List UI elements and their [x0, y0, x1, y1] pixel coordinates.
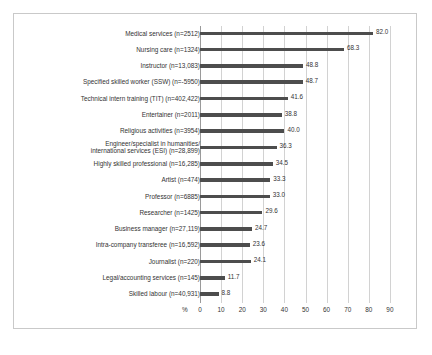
x-tick-label-50: 50 — [296, 306, 316, 313]
category-label: Business manager (n=27,119) — [20, 225, 200, 233]
category-label: Intra-company transferee (n=16,592) — [20, 241, 200, 249]
bar — [200, 243, 250, 247]
chart-bar-row: Religious activities (n=3954)40.0 — [14, 124, 418, 139]
bar-value-label: 82.0 — [376, 28, 388, 35]
category-label: Highly skilled professional (n=16,285) — [20, 160, 200, 168]
category-label: Religious activities (n=3954) — [20, 127, 200, 135]
plot-area: Medical services (n=2512)82.0Nursing car… — [14, 14, 418, 330]
chart-bar-row: Legal/accounting services (n=145)11.7 — [14, 271, 418, 286]
x-tick-label-90: 90 — [380, 306, 400, 313]
chart-bar-row: Artist (n=474)33.3 — [14, 173, 418, 188]
bar-value-label: 29.6 — [265, 207, 277, 214]
bar-value-label: 48.7 — [306, 77, 318, 84]
bar — [200, 97, 288, 101]
bar — [200, 227, 252, 231]
category-label: Researcher (n=1425) — [20, 209, 200, 217]
bar-value-label: 24.1 — [254, 256, 266, 263]
category-label: Medical services (n=2512) — [20, 30, 200, 38]
chart-bar-row: Entertainer (n=2011)38.8 — [14, 108, 418, 123]
bar — [200, 80, 303, 84]
category-label: Skilled labour (n=40,931) — [20, 290, 200, 298]
x-tick-label-20: 20 — [232, 306, 252, 313]
chart-bar-row: Professor (n=6885)33.0 — [14, 189, 418, 204]
bar — [200, 113, 282, 117]
category-label: Technical intern training (TIT) (n=402,4… — [20, 95, 200, 103]
bar-value-label: 33.0 — [273, 191, 285, 198]
chart-bar-row: Skilled labour (n=40,931)8.8 — [14, 287, 418, 302]
x-tick-label-10: 10 — [211, 306, 231, 313]
bar-value-label: 8.8 — [222, 289, 231, 296]
chart-bar-row: Highly skilled professional (n=16,285)34… — [14, 156, 418, 171]
category-label: Legal/accounting services (n=145) — [20, 274, 200, 282]
bar-value-label: 24.7 — [255, 224, 267, 231]
chart-bar-row: Researcher (n=1425)29.6 — [14, 205, 418, 220]
bar-value-label: 11.7 — [228, 273, 240, 280]
bar — [200, 162, 273, 166]
chart-bar-row: Intra-company transferee (n=16,592)23.6 — [14, 238, 418, 253]
chart-bar-row: Journalist (n=220)24.1 — [14, 254, 418, 269]
category-label: Professor (n=6885) — [20, 193, 200, 201]
chart-bar-row: Specified skilled worker (SSW) (n=-5950)… — [14, 75, 418, 90]
category-label: Specified skilled worker (SSW) (n=-5950) — [20, 78, 200, 86]
bar — [200, 48, 344, 52]
bar — [200, 178, 270, 182]
x-axis-unit-label: % — [182, 306, 188, 313]
chart-bar-row: Business manager (n=27,119)24.7 — [14, 222, 418, 237]
bar-value-label: 40.0 — [287, 126, 299, 133]
category-label: Engineer/specialist in humanities/ inter… — [20, 140, 200, 155]
chart-bar-row: Medical services (n=2512)82.0 — [14, 26, 418, 41]
bar — [200, 32, 373, 36]
bar — [200, 276, 225, 280]
chart-bar-row: Nursing care (n=1324)68.3 — [14, 42, 418, 57]
bar-value-label: 41.6 — [291, 93, 303, 100]
bar-value-label: 38.8 — [285, 110, 297, 117]
bar — [200, 64, 303, 68]
chart-bar-row: Engineer/specialist in humanities/ inter… — [14, 140, 418, 155]
bar-value-label: 48.8 — [306, 61, 318, 68]
bar — [200, 195, 270, 199]
category-label: Entertainer (n=2011) — [20, 111, 200, 119]
x-tick-label-70: 70 — [338, 306, 358, 313]
bar — [200, 211, 262, 215]
bar-value-label: 34.5 — [276, 159, 288, 166]
chart-bar-row: Instructor (n=13,083)48.8 — [14, 59, 418, 74]
chart-frame: Medical services (n=2512)82.0Nursing car… — [13, 13, 417, 329]
category-label: Journalist (n=220) — [20, 258, 200, 266]
category-label: Artist (n=474) — [20, 176, 200, 184]
chart-bar-row: Technical intern training (TIT) (n=402,4… — [14, 91, 418, 106]
bar-value-label: 33.3 — [273, 175, 285, 182]
category-label: Instructor (n=13,083) — [20, 62, 200, 70]
bar-value-label: 68.3 — [347, 44, 359, 51]
bar-value-label: 36.3 — [280, 142, 292, 149]
x-tick-label-30: 30 — [253, 306, 273, 313]
bar — [200, 129, 284, 133]
x-tick-label-80: 80 — [359, 306, 379, 313]
x-tick-label-0: 0 — [190, 306, 210, 313]
bar — [200, 146, 277, 150]
x-tick-label-40: 40 — [274, 306, 294, 313]
x-tick-label-60: 60 — [317, 306, 337, 313]
bar — [200, 260, 251, 264]
bar — [200, 292, 219, 296]
category-label: Nursing care (n=1324) — [20, 46, 200, 54]
bar-value-label: 23.6 — [253, 240, 265, 247]
